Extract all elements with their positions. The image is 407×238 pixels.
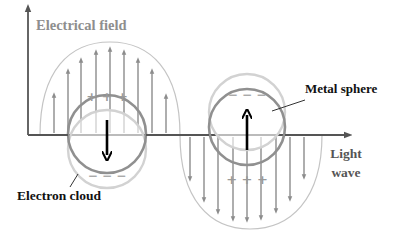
metal-sphere-label: Metal sphere bbox=[305, 81, 378, 96]
light-wave-label-line1: Light bbox=[330, 146, 362, 161]
plasmon-diagram: + + + − − − − − − + + + Electrical field… bbox=[0, 0, 407, 238]
electron-cloud-label: Electron cloud bbox=[17, 188, 102, 203]
electrical-field-label: Electrical field bbox=[36, 17, 127, 33]
right-positive-charges: + + + bbox=[226, 172, 268, 187]
right-negative-charges: − − − bbox=[228, 88, 267, 102]
left-negative-charges: − − − bbox=[88, 169, 127, 183]
electron-cloud-leader-line bbox=[70, 174, 78, 187]
left-positive-charges: + + + bbox=[86, 89, 128, 104]
light-wave-label-line2: wave bbox=[331, 165, 360, 180]
